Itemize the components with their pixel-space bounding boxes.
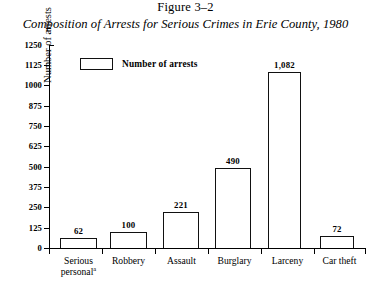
y-tick-label-1125: 1125 — [0, 61, 42, 69]
y-axis-title-text: Number of arrests — [42, 7, 53, 83]
bar-serious-personal[interactable] — [60, 238, 97, 248]
bar-car-theft[interactable] — [320, 236, 354, 248]
y-tick-label-1250: 1250 — [0, 41, 42, 49]
figure-title: Composition of Arrests for Serious Crime… — [0, 16, 371, 32]
x-tick-1 — [102, 249, 103, 254]
y-tick-125 — [44, 228, 49, 229]
category-label-line1: Robbery — [102, 255, 155, 266]
y-tick-label-750: 750 — [0, 122, 42, 130]
bar-value-assault: 221 — [163, 201, 199, 210]
category-label-robbery: Robbery — [102, 255, 155, 266]
chart-plot-area: 0 125 250 375 500 625 750 875 1000 1125 … — [49, 45, 366, 248]
y-tick-label-500: 500 — [0, 163, 42, 171]
category-label-line1: Serious — [49, 255, 108, 266]
figure-number: Figure 3–2 — [0, 0, 371, 15]
y-tick-label-1000: 1000 — [0, 81, 42, 89]
category-label-line1: Car theft — [312, 255, 367, 266]
bar-value-burglary: 490 — [215, 157, 251, 166]
legend-label: Number of arrests — [122, 59, 198, 69]
y-tick-625 — [44, 146, 49, 147]
category-label-larceny: Larceny — [261, 255, 314, 266]
y-tick-label-375: 375 — [0, 183, 42, 191]
y-tick-375 — [44, 187, 49, 188]
category-label-serious-personal: Serious personala — [49, 255, 108, 277]
category-label-burglary: Burglary — [208, 255, 261, 266]
chart-legend: Number of arrests — [80, 58, 198, 70]
bar-burglary[interactable] — [215, 168, 251, 248]
footnote-marker: a — [93, 265, 96, 272]
x-tick-2 — [155, 249, 156, 254]
y-tick-label-0: 0 — [0, 244, 42, 252]
x-tick-0 — [49, 249, 50, 254]
y-tick-label-250: 250 — [0, 203, 42, 211]
x-tick-4 — [261, 249, 262, 254]
category-label-line2: personala — [49, 266, 108, 277]
x-tick-3 — [208, 249, 209, 254]
category-label-line1: Assault — [155, 255, 208, 266]
legend-swatch-icon — [80, 58, 113, 70]
category-label-line1: Larceny — [261, 255, 314, 266]
category-label-line1: Burglary — [208, 255, 261, 266]
y-tick-750 — [44, 126, 49, 127]
y-tick-500 — [44, 167, 49, 168]
bar-robbery[interactable] — [110, 232, 147, 248]
bar-assault[interactable] — [163, 212, 199, 248]
bar-value-robbery: 100 — [110, 221, 147, 230]
bar-larceny[interactable] — [268, 72, 301, 248]
category-label-car-theft: Car theft — [312, 255, 367, 266]
bar-value-larceny: 1,082 — [264, 61, 305, 70]
category-label-assault: Assault — [155, 255, 208, 266]
y-tick-label-125: 125 — [0, 224, 42, 232]
y-tick-label-875: 875 — [0, 102, 42, 110]
y-axis-title: Number of arrests — [42, 0, 53, 105]
x-tick-6 — [365, 249, 366, 254]
y-tick-250 — [44, 207, 49, 208]
bar-value-car-theft: 72 — [320, 225, 354, 234]
y-tick-875 — [44, 106, 49, 107]
bar-value-serious-personal: 62 — [60, 227, 97, 236]
y-tick-label-625: 625 — [0, 142, 42, 150]
x-tick-5 — [314, 249, 315, 254]
